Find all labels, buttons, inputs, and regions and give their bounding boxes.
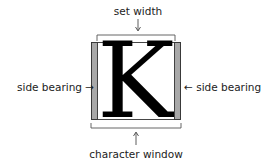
set-width-label: set width bbox=[0, 6, 269, 17]
character-window-arrow bbox=[134, 132, 139, 145]
arrow-right-icon: → bbox=[85, 81, 94, 93]
arrow-left-icon: ← bbox=[184, 81, 193, 93]
character-window-label: character window bbox=[0, 149, 269, 160]
right-side-bearing-label: ← side bearing bbox=[184, 82, 261, 93]
right-side-bearing-bar bbox=[175, 43, 181, 120]
character-window-bracket bbox=[91, 123, 181, 128]
left-side-bearing-label: side bearing → bbox=[17, 82, 94, 93]
left-side-bearing-text: side bearing bbox=[17, 81, 82, 93]
glyph-k: K bbox=[97, 40, 174, 122]
right-side-bearing-text: side bearing bbox=[196, 81, 261, 93]
set-width-arrow bbox=[136, 19, 141, 31]
